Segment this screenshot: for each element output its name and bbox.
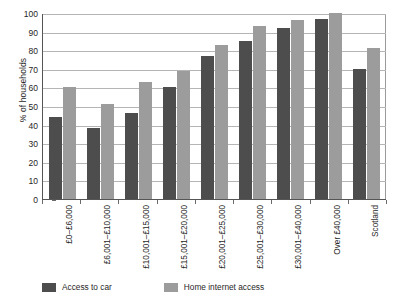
bar (291, 20, 304, 199)
bar-chart: % of households 1009080706050403020100 £… (0, 0, 396, 302)
x-axis-tick-mark (386, 200, 387, 204)
x-axis-tick-label: £0–£6,000 (65, 205, 74, 244)
x-axis-label-cell: £20,001–£25,000 (195, 205, 233, 271)
bar (329, 13, 342, 199)
x-axis-tick-label: £10,001–£15,000 (142, 205, 151, 269)
legend-swatch (42, 283, 56, 292)
x-axis-tick-label: £20,001–£25,000 (218, 205, 227, 269)
bar (277, 28, 290, 199)
y-axis-tick-label: 40 (14, 122, 38, 130)
x-axis-tick-mark (195, 200, 196, 204)
x-axis-tick-mark (348, 200, 349, 204)
x-axis-tick-mark (271, 200, 272, 204)
x-axis-label-cell: Scotland (348, 205, 386, 271)
bar (367, 48, 380, 199)
y-axis-tick-label: 70 (14, 66, 38, 74)
bar (177, 71, 190, 199)
x-axis-tick-label: £6,001–£10,000 (103, 205, 112, 264)
bar (353, 69, 366, 199)
bar-group (157, 14, 195, 199)
y-axis-tick-label: 80 (14, 47, 38, 55)
bar-group (272, 14, 310, 199)
bar (125, 113, 138, 199)
legend-label: Access to car (62, 282, 112, 292)
legend-label: Home internet access (184, 282, 264, 292)
bar (215, 45, 228, 199)
bar-group (234, 14, 272, 199)
x-axis-label-cell: Over £40,000 (310, 205, 348, 271)
y-axis-tick-label: 10 (14, 177, 38, 185)
x-axis-label-cell: £25,001–£30,000 (233, 205, 271, 271)
x-axis-tick-label: £25,001–£30,000 (256, 205, 265, 269)
legend-item: Access to car (42, 282, 112, 292)
x-axis-tick-labels: £0–£6,000£6,001–£10,000£10,001–£15,000£1… (42, 205, 386, 271)
x-axis-tick-label: Scotland (371, 205, 380, 237)
bar (63, 87, 76, 199)
x-axis-tick-mark (233, 200, 234, 204)
x-axis-label-cell: £10,001–£15,000 (118, 205, 156, 271)
y-axis-tick-label: 20 (14, 159, 38, 167)
x-axis-tick-mark (157, 200, 158, 204)
bar (87, 128, 100, 199)
x-axis-tick-mark (310, 200, 311, 204)
bar-group (348, 14, 386, 199)
x-axis-tick-mark (118, 200, 119, 204)
plot-area (42, 14, 386, 200)
legend-item: Home internet access (164, 282, 264, 292)
bar-group (81, 14, 119, 199)
bar (139, 82, 152, 199)
legend-swatch (164, 283, 178, 292)
y-axis-tick-label: 50 (14, 103, 38, 111)
bar-series-container (43, 14, 386, 199)
chart-legend: Access to carHome internet access (42, 280, 264, 294)
bar (49, 117, 62, 199)
x-axis-tick-mark (80, 200, 81, 204)
y-axis-tick-label: 90 (14, 29, 38, 37)
x-axis-tick-label: £30,001–£40,000 (294, 205, 303, 269)
bar (315, 19, 328, 199)
x-axis-tick-label: £15,001–£20,000 (180, 205, 189, 269)
x-axis-label-cell: £30,001–£40,000 (271, 205, 309, 271)
bar (163, 87, 176, 199)
bar (101, 104, 114, 199)
x-axis-tick-label: Over £40,000 (333, 205, 342, 255)
bar-group (119, 14, 157, 199)
x-axis-tick-mark (42, 200, 43, 204)
x-axis-label-cell: £15,001–£20,000 (157, 205, 195, 271)
y-axis-tick-label: 60 (14, 84, 38, 92)
x-axis-label-cell: £6,001–£10,000 (80, 205, 118, 271)
y-axis-tick-label: 0 (14, 196, 38, 204)
y-axis-tick-label: 100 (14, 10, 38, 18)
bar (201, 56, 214, 199)
bar-group (43, 14, 81, 199)
y-axis-tick-labels: 1009080706050403020100 (14, 14, 38, 200)
bar (253, 26, 266, 199)
bar-group (195, 14, 233, 199)
x-axis-label-cell: £0–£6,000 (42, 205, 80, 271)
bar (239, 41, 252, 199)
bar-group (310, 14, 348, 199)
y-axis-tick-label: 30 (14, 140, 38, 148)
